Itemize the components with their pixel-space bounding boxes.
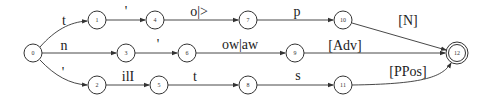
edge-label-4-7: o|> — [190, 4, 208, 19]
edge-label-0-2: ' — [62, 65, 65, 80]
state-1: 1 — [88, 11, 106, 29]
state-label: 3 — [125, 50, 128, 56]
edge-label-3-6: ' — [157, 37, 160, 52]
state-8: 8 — [239, 76, 257, 94]
edge-label-0-3: n — [61, 38, 68, 53]
edge-label-6-9: ow|aw — [222, 37, 259, 52]
edge-label-11-12: [PPos] — [389, 64, 426, 79]
state-0-start: 0 — [24, 44, 42, 62]
edge-label-2-5: ilI — [122, 69, 135, 84]
edge-label-10-12: [N] — [398, 13, 417, 28]
state-label: 2 — [96, 82, 99, 88]
state-label: 12 — [454, 50, 460, 56]
state-11: 11 — [334, 76, 352, 94]
edge-label-1-4: ' — [125, 4, 128, 19]
state-5: 5 — [150, 76, 168, 94]
state-label: 9 — [294, 50, 297, 56]
edge-label-8-11: s — [295, 68, 300, 83]
state-label: 5 — [158, 82, 161, 88]
state-label: 4 — [154, 17, 157, 23]
state-7: 7 — [239, 11, 257, 29]
state-3: 3 — [117, 44, 135, 62]
state-label: 1 — [96, 17, 99, 23]
state-label: 11 — [340, 82, 346, 88]
edge-label-5-8: t — [193, 69, 197, 84]
state-label: 6 — [186, 50, 189, 56]
state-6: 6 — [178, 44, 196, 62]
edge-label-9-12: [Adv] — [328, 38, 361, 53]
state-2: 2 — [88, 76, 106, 94]
edge-label-0-1: t — [62, 13, 66, 28]
state-4: 4 — [146, 11, 164, 29]
finite-state-automaton-diagram: t n ' ' ' ilI o|> ow|aw t p s [N] [Adv] … — [0, 0, 495, 103]
state-10: 10 — [334, 11, 352, 29]
state-9: 9 — [286, 44, 304, 62]
state-label: 8 — [247, 82, 250, 88]
state-label: 0 — [32, 50, 35, 56]
state-label: 7 — [247, 17, 250, 23]
state-label: 10 — [340, 17, 346, 23]
state-12-final: 12 — [446, 42, 468, 64]
edge-label-7-10: p — [294, 4, 301, 19]
